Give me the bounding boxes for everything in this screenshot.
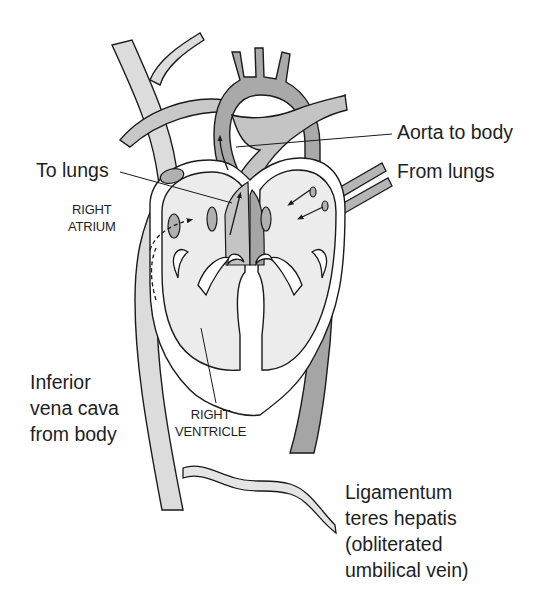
- label-to-lungs: To lungs: [36, 160, 109, 182]
- ligamentum-teres: [183, 466, 336, 533]
- label-aorta-to-body: Aorta to body: [397, 122, 513, 144]
- label-inferior-vena-cava: Inferior vena cava from body: [30, 370, 119, 448]
- label-right-ventricle: RIGHT VENTRICLE: [175, 407, 246, 441]
- pulmonary-valve-left: [207, 207, 217, 231]
- label-from-lungs: From lungs: [397, 161, 495, 183]
- label-right-atrium: RIGHT ATRIUM: [68, 202, 116, 236]
- brachiocephalic-vein: [150, 33, 204, 85]
- label-ligamentum-teres: Ligamentum teres hepatis (obliterated um…: [345, 480, 469, 584]
- aortic-valve-right: [261, 207, 271, 231]
- heart-diagram: [0, 0, 553, 615]
